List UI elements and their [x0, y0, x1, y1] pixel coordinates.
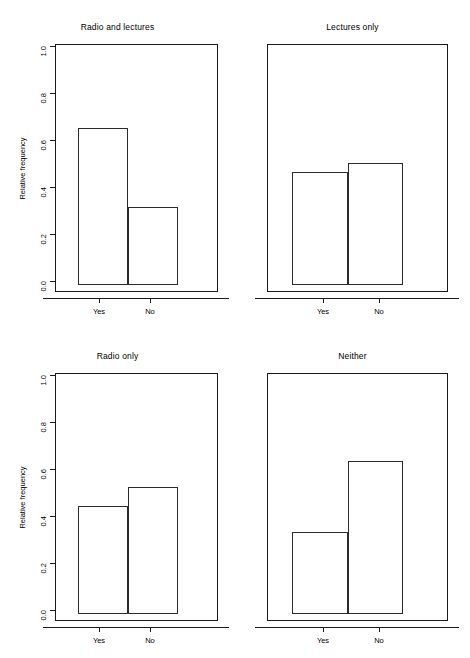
panel-title: Radio only — [0, 351, 235, 361]
x-tick: No — [379, 627, 380, 632]
bar-yes — [292, 172, 347, 285]
x-tick: No — [150, 298, 151, 303]
bar-group — [56, 379, 217, 614]
x-tick: No — [150, 627, 151, 632]
x-axis: Yes No — [43, 298, 229, 299]
x-axis: Yes No — [255, 298, 459, 299]
bar-yes — [292, 532, 347, 614]
chart-panel-lectures-only: Lectures only Yes No — [235, 0, 470, 329]
y-tick-label: 0.6 — [30, 140, 58, 164]
y-tick-label: 0.4 — [30, 187, 58, 211]
bar-no — [128, 207, 178, 285]
plot-area — [55, 373, 218, 621]
y-tick-label: 1.0 — [30, 375, 58, 399]
y-tick-label: 0.8 — [30, 422, 58, 446]
x-tick-label: No — [130, 307, 170, 316]
x-tick: No — [379, 298, 380, 303]
bar-group — [268, 379, 447, 614]
y-axis-title: Relative frequency — [14, 44, 30, 292]
chart-panel-radio-and-lectures: Radio and lectures Relative frequency 1.… — [0, 0, 235, 329]
figure-panel-grid: Radio and lectures Relative frequency 1.… — [0, 0, 470, 658]
bar-no — [348, 163, 403, 285]
y-axis-title-text: Relative frequency — [18, 137, 27, 199]
plot-area — [267, 44, 448, 292]
x-tick-label: No — [359, 307, 399, 316]
chart-panel-radio-only: Radio only Relative frequency 1.0 0.8 0.… — [0, 329, 235, 658]
y-tick-label: 0.0 — [30, 610, 58, 634]
bar-no — [128, 487, 178, 614]
y-tick-label: 0.6 — [30, 469, 58, 493]
plot-area — [267, 373, 448, 621]
plot-area — [55, 44, 218, 292]
x-axis: Yes No — [255, 627, 459, 628]
chart-panel-neither: Neither Yes No — [235, 329, 470, 658]
bar-no — [348, 461, 403, 614]
y-axis-title-text: Relative frequency — [18, 466, 27, 528]
y-tick-label: 0.0 — [30, 281, 58, 305]
x-tick-label: Yes — [79, 636, 119, 645]
y-tick-label: 1.0 — [30, 46, 58, 70]
bar-group — [56, 50, 217, 285]
x-tick-label: No — [130, 636, 170, 645]
x-tick-label: Yes — [303, 636, 343, 645]
x-tick: Yes — [99, 627, 100, 632]
x-tick-label: No — [359, 636, 399, 645]
x-tick-label: Yes — [303, 307, 343, 316]
x-tick: Yes — [323, 298, 324, 303]
y-axis-title: Relative frequency — [14, 373, 30, 621]
bar-yes — [78, 128, 128, 285]
bar-group — [268, 50, 447, 285]
bar-yes — [78, 506, 128, 614]
y-tick-label: 0.8 — [30, 93, 58, 117]
y-tick-label: 0.2 — [30, 234, 58, 258]
panel-title: Neither — [235, 351, 470, 361]
panel-title: Lectures only — [235, 22, 470, 32]
y-tick-label: 0.2 — [30, 563, 58, 587]
x-tick: Yes — [99, 298, 100, 303]
x-tick-label: Yes — [79, 307, 119, 316]
panel-title: Radio and lectures — [0, 22, 235, 32]
x-axis: Yes No — [43, 627, 229, 628]
x-tick: Yes — [323, 627, 324, 632]
y-tick-label: 0.4 — [30, 516, 58, 540]
